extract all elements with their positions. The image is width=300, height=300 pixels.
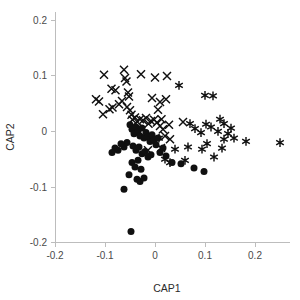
y-tick-label: -0.2 <box>30 237 48 248</box>
data-point-circle <box>126 171 133 178</box>
data-point-circle <box>155 135 162 142</box>
data-point-circle <box>153 141 160 148</box>
data-point-circle <box>118 140 125 147</box>
data-point-circle <box>135 157 142 164</box>
x-tick-label: 0.1 <box>198 250 212 261</box>
data-point-circle <box>138 166 145 173</box>
scatter-plot-figure: -0.2-0.100.10.2-0.2-0.100.10.2 CAP1 CAP2 <box>0 0 300 300</box>
data-point-circle <box>132 164 139 171</box>
data-point-circle <box>121 186 128 193</box>
x-axis-title: CAP1 <box>153 282 181 294</box>
x-tick-label: -0.1 <box>96 250 114 261</box>
y-tick-label: 0 <box>41 126 47 137</box>
data-point-circle <box>160 145 167 152</box>
x-tick-label: 0 <box>152 250 158 261</box>
data-point-circle <box>148 151 155 158</box>
data-point-circle <box>178 160 185 167</box>
y-tick-label: 0.1 <box>33 70 47 81</box>
x-tick-label: -0.2 <box>46 250 64 261</box>
data-point-circle <box>109 149 116 156</box>
x-tick-label: 0.2 <box>248 250 262 261</box>
y-axis-title: CAP2 <box>4 123 16 151</box>
y-tick-label: -0.1 <box>30 182 48 193</box>
data-point-circle <box>191 165 198 172</box>
chart-canvas: -0.2-0.100.10.2-0.2-0.100.10.2 CAP1 CAP2 <box>0 0 300 300</box>
data-point-circle <box>141 175 148 182</box>
data-point-circle <box>163 152 170 159</box>
data-point-circle <box>136 144 143 151</box>
data-point-circle <box>169 159 176 166</box>
data-point-circle <box>128 228 135 235</box>
y-tick-label: 0.2 <box>33 15 47 26</box>
data-point-circle <box>201 168 208 175</box>
